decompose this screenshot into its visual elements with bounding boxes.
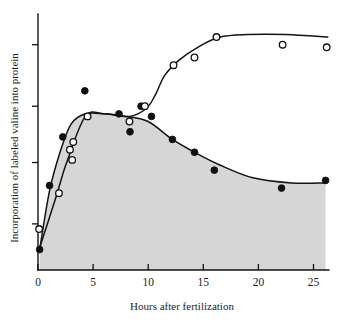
data-point-filled-circles-2 (59, 133, 66, 140)
data-point-filled-circles-1 (46, 182, 53, 189)
x-axis-title: Hours after fertilization (130, 300, 234, 312)
data-point-filled-circles-0 (36, 246, 43, 253)
x-tick-label-0: 0 (35, 276, 41, 288)
data-point-filled-circles-11 (278, 185, 285, 192)
data-point-open-circles-7 (142, 103, 149, 110)
data-point-filled-circles-3 (81, 87, 88, 94)
x-tick-label-layer: 0510152025 (35, 276, 319, 288)
data-point-filled-circles-7 (148, 113, 155, 120)
data-point-open-circles-0 (36, 226, 43, 233)
data-point-open-circles-11 (279, 41, 286, 48)
data-point-open-circles-6 (126, 118, 133, 125)
figure-container: 0510152025 Hours after fertilization Inc… (0, 0, 345, 322)
data-point-open-circles-4 (70, 139, 77, 146)
x-tick-label-4: 20 (253, 276, 265, 288)
data-point-open-circles-8 (170, 62, 177, 69)
data-point-open-circles-9 (191, 54, 198, 61)
data-point-open-circles-12 (323, 44, 330, 51)
data-point-filled-circles-4 (116, 110, 123, 117)
x-tick-label-3: 15 (198, 276, 210, 288)
y-axis-title: Incorporation of labeled valine into pro… (8, 53, 20, 243)
data-point-open-circles-5 (84, 113, 91, 120)
data-point-open-circles-3 (69, 157, 76, 164)
data-point-filled-circles-12 (322, 177, 329, 184)
data-point-filled-circles-8 (169, 136, 176, 143)
data-point-open-circles-2 (67, 146, 74, 153)
data-point-open-circles-10 (213, 34, 220, 41)
data-point-open-circles-1 (56, 190, 63, 197)
data-point-filled-circles-9 (191, 149, 198, 156)
x-tick-label-1: 5 (90, 276, 96, 288)
x-tick-label-5: 25 (308, 276, 320, 288)
data-point-filled-circles-10 (211, 167, 218, 174)
data-point-filled-circles-5 (127, 128, 134, 135)
chart-plot: 0510152025 Hours after fertilization Inc… (0, 0, 345, 322)
x-tick-label-2: 10 (142, 276, 154, 288)
